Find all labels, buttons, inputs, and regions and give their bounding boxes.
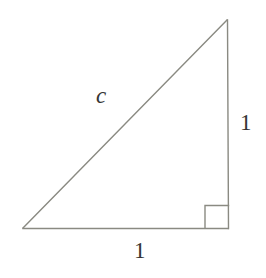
triangle-drawing	[0, 0, 266, 278]
vertical-leg-line	[228, 20, 229, 229]
horizontal-leg-label: 1	[134, 239, 146, 262]
hypotenuse-label: c	[96, 84, 106, 107]
right-angle-marker-icon	[205, 206, 229, 229]
vertical-leg-label: 1	[240, 111, 252, 134]
right-triangle-figure: c 1 1	[0, 0, 266, 278]
hypotenuse-line	[23, 20, 227, 228]
